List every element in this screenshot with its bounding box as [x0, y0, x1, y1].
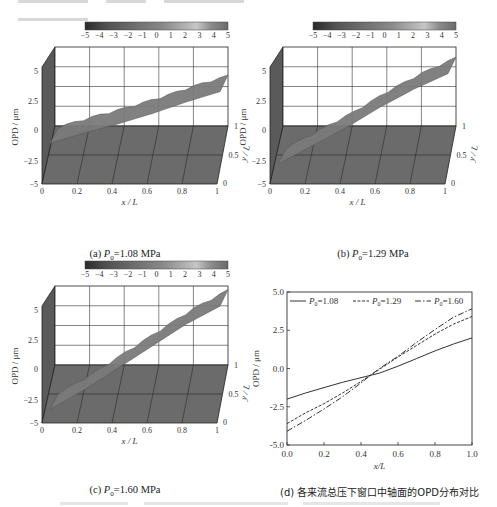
colorbar-tick-label: −5: [81, 31, 90, 40]
x-tick-label: 0: [40, 187, 44, 196]
z-tick-label: 0: [34, 126, 38, 135]
x-tick-label: 1.0: [466, 449, 478, 459]
surface-plot-a: −5−4−3−2−101234552.50−2.5−5OPD / μm00.20…: [0, 14, 250, 259]
x-axis-label: x / L: [348, 197, 365, 207]
caption-b: (b) P0=1.29 MPa: [248, 248, 497, 262]
panel-a-surface-plot: −5−4−3−2−101234552.50−2.5−5OPD / μm00.20…: [0, 14, 250, 259]
panel-d-line-chart: 5.02.50.0-2.5-5.00.00.20.40.60.81.0x/LOP…: [250, 280, 497, 480]
colorbar-tick-label: 0: [383, 31, 387, 40]
x-tick-label: 0.0: [281, 449, 293, 459]
caption-d-text: (d) 各来流总压下窗口中轴面的OPD分布对比: [280, 487, 479, 498]
colorbar-tick-label: −3: [337, 31, 346, 40]
z-tick-label: 5: [262, 67, 266, 76]
colorbar-tick-label: −4: [95, 270, 104, 279]
y-tick-label: 1: [234, 361, 238, 370]
x-tick-label: 0: [40, 426, 44, 435]
colorbar-tick-label: 3: [197, 270, 201, 279]
colorbar-tick-label: −2: [124, 31, 133, 40]
colorbar-tick-label: −2: [352, 31, 361, 40]
y-tick-label: 2.5: [273, 325, 285, 335]
colorbar-tick-label: 5: [454, 31, 458, 40]
surface-plot-c: −5−4−3−2−101234552.50−2.5−5OPD / μm00.20…: [0, 253, 250, 498]
z-axis-label: OPD / μm: [10, 109, 20, 146]
x-tick-label: 0.2: [72, 426, 82, 435]
x-tick-label: 0.8: [177, 187, 187, 196]
colorbar-tick-label: −1: [138, 31, 147, 40]
x-tick-label: 0: [268, 187, 272, 196]
z-tick-label: 5: [34, 306, 38, 315]
colorbar-tick-label: 2: [411, 31, 415, 40]
surface-plot-b: −5−4−3−2−101234552.50−2.5−5OPD / μm00.20…: [228, 14, 478, 259]
colorbar-tick-label: 1: [397, 31, 401, 40]
z-tick-label: −5: [29, 419, 38, 428]
x-tick-label: 0.6: [392, 449, 404, 459]
panel-b-surface-plot: −5−4−3−2−101234552.50−2.5−5OPD / μm00.20…: [228, 14, 478, 259]
caption-b-value: =1.29 MPa: [362, 248, 409, 259]
legend-label: P0=1.29: [371, 296, 402, 307]
caption-d: (d) 各来流总压下窗口中轴面的OPD分布对比: [262, 484, 497, 499]
x-tick-label: 0.2: [300, 187, 310, 196]
colorbar-tick-label: 0: [155, 270, 159, 279]
x-tick-label: 0.4: [107, 187, 117, 196]
colorbar-tick-label: 3: [425, 31, 429, 40]
x-axis-label: x/L: [373, 461, 386, 471]
colorbar-tick-label: 2: [183, 270, 187, 279]
colorbar-tick-label: −1: [366, 31, 375, 40]
colorbar-tick-label: −4: [323, 31, 332, 40]
y-tick-label: 0.5: [457, 151, 467, 160]
colorbar-tick-label: 3: [197, 31, 201, 40]
x-tick-label: 0.8: [429, 449, 441, 459]
colorbar-tick-label: −3: [109, 270, 118, 279]
z-axis-label: OPD / μm: [238, 109, 248, 146]
colorbar-tick-label: 4: [212, 270, 216, 279]
x-tick-label: 0.4: [355, 449, 367, 459]
colorbar-tick-label: 5: [226, 270, 230, 279]
x-tick-label: 0.4: [335, 187, 345, 196]
z-tick-label: 0: [34, 365, 38, 374]
caption-b-prefix: (b): [337, 248, 352, 259]
y-axis-label: y / L: [238, 383, 250, 402]
colorbar-tick-label: −2: [124, 270, 133, 279]
x-tick-label: 0.8: [405, 187, 415, 196]
x-axis-label: x / L: [120, 436, 137, 446]
cropped-header-text: [18, 0, 338, 4]
y-axis-label: OPD / μm: [251, 350, 261, 387]
z-tick-label: −2.5: [251, 157, 266, 166]
z-axis-label: OPD / μm: [10, 348, 20, 385]
z-tick-label: −2.5: [23, 396, 38, 405]
colorbar-tick-label: 4: [212, 31, 216, 40]
z-tick-label: 2.5: [28, 336, 38, 345]
colorbar: [313, 22, 456, 30]
x-tick-label: 0.6: [142, 187, 152, 196]
caption-c-value: =1.60 MPa: [114, 484, 161, 495]
y-tick-label: 5.0: [273, 287, 285, 297]
colorbar-tick-label: −1: [138, 270, 147, 279]
colorbar-tick-label: 2: [183, 31, 187, 40]
y-tick-label: 0: [451, 179, 455, 188]
line-chart-d: 5.02.50.0-2.5-5.00.00.20.40.60.81.0x/LOP…: [250, 280, 497, 480]
x-tick-label: 1: [443, 187, 447, 196]
x-tick-label: 0.4: [107, 426, 117, 435]
colorbar-tick-label: 0: [155, 31, 159, 40]
legend-label: P0=1.60: [433, 296, 464, 307]
colorbar: [85, 22, 228, 30]
y-tick-label: 0.5: [229, 390, 239, 399]
x-tick-label: 1: [215, 187, 219, 196]
colorbar-tick-label: −4: [95, 31, 104, 40]
z-tick-label: −5: [257, 180, 266, 189]
z-tick-label: 2.5: [256, 97, 266, 106]
z-tick-label: −2.5: [23, 157, 38, 166]
z-tick-label: 5: [34, 67, 38, 76]
caption-c-prefix: (c): [90, 484, 104, 495]
figure-caption-faint: [60, 502, 440, 505]
z-tick-label: 2.5: [28, 97, 38, 106]
colorbar-tick-label: −5: [309, 31, 318, 40]
x-axis-label: x / L: [120, 197, 137, 207]
series-line: [287, 317, 472, 424]
colorbar-tick-label: 4: [440, 31, 444, 40]
x-tick-label: 0.6: [370, 187, 380, 196]
series-line: [287, 309, 472, 431]
z-tick-label: −5: [29, 180, 38, 189]
colorbar-tick-label: −5: [81, 270, 90, 279]
y-tick-label: 0.0: [273, 364, 285, 374]
